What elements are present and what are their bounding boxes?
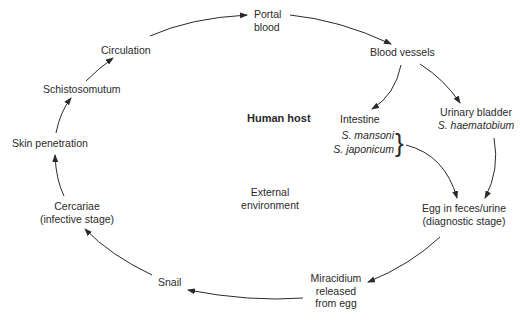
cercariae-line1: Cercariae bbox=[34, 200, 120, 213]
region-external-environment: External environment bbox=[234, 186, 306, 211]
region-human-host: Human host bbox=[247, 112, 295, 125]
arrow-vessels-to-intestine bbox=[372, 65, 401, 109]
s-haematobium-label: S. haematobium bbox=[432, 119, 520, 132]
node-s-mansoni: S. mansoni bbox=[330, 129, 394, 142]
arrow-cercariae-to-skin bbox=[55, 155, 64, 196]
node-s-japonicum: S. japonicum bbox=[326, 143, 394, 156]
arrow-circulation-to-portal-blood bbox=[150, 15, 247, 36]
node-cercariae: Cercariae (infective stage) bbox=[34, 200, 120, 225]
node-circulation: Circulation bbox=[101, 44, 151, 57]
arrow-miracidium-to-snail bbox=[188, 290, 303, 299]
miracidium-line3: from egg bbox=[305, 297, 367, 310]
node-blood-vessels: Blood vessels bbox=[370, 46, 435, 59]
miracidium-line1: Miracidium bbox=[305, 272, 367, 285]
portal-blood-label: Portal blood bbox=[254, 8, 288, 33]
node-miracidium: Miracidium released from egg bbox=[305, 272, 367, 310]
node-schistosomutum: Schistosomutum bbox=[43, 83, 121, 96]
miracidium-line2: released bbox=[305, 285, 367, 298]
node-skin-penetration: Skin penetration bbox=[12, 137, 88, 150]
node-portal-blood: Portal blood bbox=[254, 8, 288, 33]
arrow-egg-to-miracidium bbox=[368, 237, 440, 282]
cycle-arrows bbox=[0, 0, 520, 320]
arrow-intestine-to-egg bbox=[406, 145, 457, 198]
arrow-bladder-to-egg bbox=[485, 138, 496, 198]
egg-line1: Egg in feces/urine bbox=[415, 202, 513, 215]
node-egg: Egg in feces/urine (diagnostic stage) bbox=[415, 202, 513, 227]
arrow-skin-to-schistosomutum bbox=[56, 98, 71, 133]
arrow-snail-to-cercariae bbox=[85, 229, 152, 275]
urinary-bladder-label: Urinary bladder bbox=[432, 106, 520, 119]
egg-line2: (diagnostic stage) bbox=[415, 215, 513, 228]
brace-intestine-species: } bbox=[395, 129, 404, 157]
arrow-schistosomutum-to-circulation bbox=[86, 58, 113, 81]
arrow-vessels-to-bladder bbox=[420, 64, 460, 103]
arrow-portal-to-blood-vessels bbox=[290, 15, 391, 44]
node-intestine: Intestine bbox=[340, 113, 380, 126]
node-urinary-bladder: Urinary bladder S. haematobium bbox=[432, 106, 520, 131]
cercariae-line2: (infective stage) bbox=[34, 213, 120, 226]
node-snail: Snail bbox=[158, 276, 181, 289]
